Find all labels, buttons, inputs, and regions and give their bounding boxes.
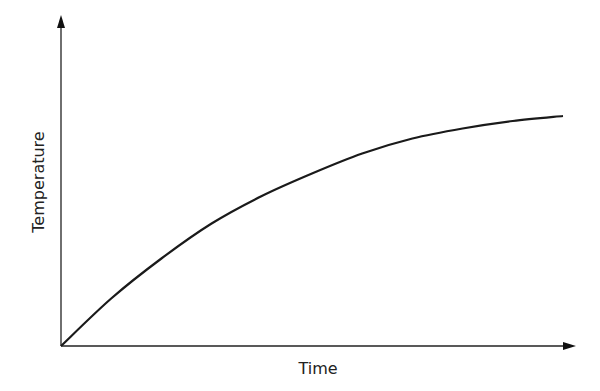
x-axis-arrow-icon	[563, 342, 576, 350]
y-axis-arrow-icon	[57, 15, 65, 28]
x-axis-label: Time	[298, 359, 337, 378]
y-axis-label: Temperature	[29, 131, 48, 232]
chart-canvas	[0, 0, 600, 391]
temperature-curve	[61, 116, 563, 346]
